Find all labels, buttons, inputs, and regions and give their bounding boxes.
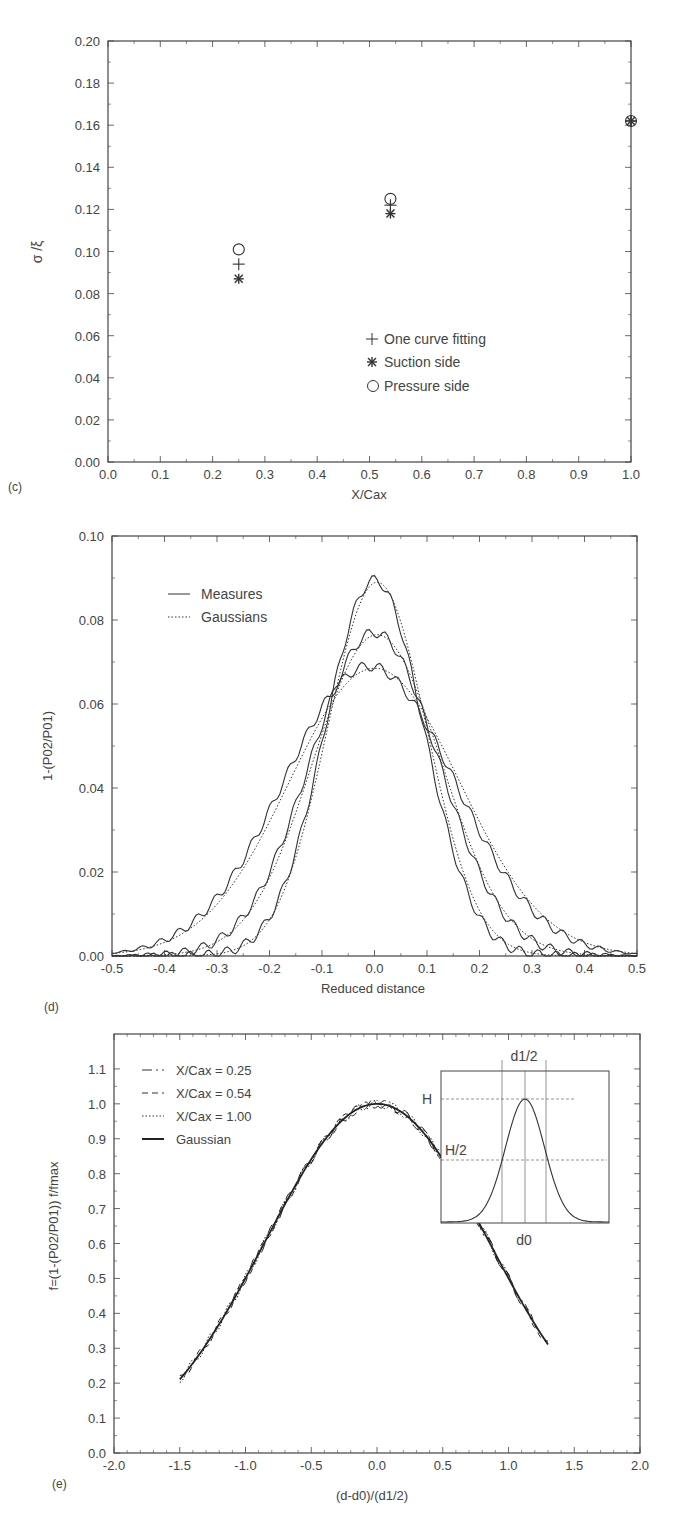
x-tick-label: -1.0 [234,1458,256,1473]
plot-frame-d [112,536,637,956]
x-tick-label: -0.2 [258,961,280,976]
legend-item-100: X/Cax = 1.00 [176,1109,252,1124]
plot-frame-c [108,41,631,462]
x-tick-label: 0.0 [368,1458,386,1473]
y-axis-ticks-c: 0.000.020.040.060.080.100.120.140.160.18… [75,34,631,470]
y-tick-label: 0.20 [75,34,100,49]
x-tick-label: 0.9 [570,467,588,482]
legend-e: X/Cax = 0.25 X/Cax = 0.54 X/Cax = 1.00 G… [142,1063,252,1147]
y-axis-label-d: 1-(P02/P01) [40,711,55,781]
x-tick-label: 0.3 [523,961,541,976]
x-tick-label: 0.0 [99,467,117,482]
curve-line [112,635,637,956]
plus-marker-icon [366,333,378,345]
y-tick-label: 0.00 [75,455,100,470]
y-tick-label: 1.0 [88,1097,106,1112]
x-tick-label: -0.4 [153,961,175,976]
legend-item-gaussians: Gaussians [201,609,267,625]
x-tick-label: 1.5 [565,1458,583,1473]
figure-canvas: 0.00.10.20.30.40.50.60.70.80.91.0 0.000.… [0,0,679,1535]
y-tick-label: 0.10 [75,245,100,260]
legend-item-054: X/Cax = 0.54 [176,1086,252,1101]
y-tick-label: 0.18 [75,76,100,91]
chart-panel-e: -2.0-1.5-1.0-0.50.00.51.01.52.0 0.00.10.… [46,1034,649,1503]
curve-line [112,582,637,956]
y-axis-label-e: f=(1-(P02/P01)) f/fmax [46,1161,61,1290]
y-tick-label: 0.04 [75,371,100,386]
x-tick-label: 0.2 [204,467,222,482]
x-tick-label: 2.0 [631,1458,649,1473]
x-tick-label: 0.8 [517,467,535,482]
y-tick-label: 0.7 [88,1202,106,1217]
x-tick-label: 0.5 [360,467,378,482]
y-tick-label: 0.06 [79,697,104,712]
x-tick-label: 0.6 [413,467,431,482]
curve-line [112,630,637,956]
y-tick-label: 0.02 [79,865,104,880]
y-tick-label: 0.08 [79,613,104,628]
legend-c: One curve fitting Suction side Pressure … [366,331,486,394]
y-tick-label: 0.8 [88,1167,106,1182]
y-tick-label: 0.6 [88,1237,106,1252]
x-tick-label: 0.4 [575,961,593,976]
x-axis-label-c: X/Cax [351,487,387,502]
legend-item-pressure: Pressure side [384,378,470,394]
x-tick-label: 0.1 [418,961,436,976]
inset-label-h-half: H/2 [445,1142,467,1158]
inset-label-d0: d0 [516,1232,532,1248]
x-tick-label: 0.0 [365,961,383,976]
legend-item-one-curve: One curve fitting [384,331,486,347]
x-tick-label: -0.3 [206,961,228,976]
y-tick-label: 0.04 [79,781,104,796]
inset-label-d1-2: d1/2 [510,1048,537,1064]
y-tick-label: 0.16 [75,118,100,133]
x-axis-label-e: (d-d0)/(d1/2) [336,1488,408,1503]
chart-panel-c: 0.00.10.20.30.40.50.60.70.80.91.0 0.000.… [8,34,640,502]
legend-d: Measures Gaussians [168,586,267,625]
x-tick-label: -0.5 [300,1458,322,1473]
y-tick-label: 0.4 [88,1306,106,1321]
y-tick-label: 0.10 [79,529,104,544]
x-tick-label: -1.5 [169,1458,191,1473]
x-tick-label: 0.7 [465,467,483,482]
y-tick-label: 0.14 [75,160,100,175]
inset-gaussian-schematic: d1/2 d0 H H/2 [422,1048,609,1248]
y-tick-label: 0.12 [75,202,100,217]
y-tick-label: 0.2 [88,1376,106,1391]
y-tick-label: 0.0 [88,1446,106,1461]
x-tick-label: 0.3 [256,467,274,482]
x-tick-label: 0.5 [434,1458,452,1473]
circle-marker-icon [368,381,379,392]
chart-panel-d: -0.5-0.4-0.3-0.2-0.10.00.10.20.30.40.5 0… [40,529,646,1014]
x-axis-label-d: Reduced distance [321,981,425,996]
legend-item-gaussian: Gaussian [176,1132,231,1147]
x-tick-label: 0.4 [308,467,326,482]
y-axis-label-c: σ /ξ [29,241,45,264]
y-tick-label: 0.02 [75,413,100,428]
y-tick-label: 0.9 [88,1132,106,1147]
y-tick-label: 0.00 [79,949,104,964]
y-tick-label: 0.3 [88,1341,106,1356]
x-tick-label: -0.5 [101,961,123,976]
legend-item-suction: Suction side [384,354,460,370]
x-tick-label: -0.1 [311,961,333,976]
asterisk-marker-icon [367,357,377,367]
inset-label-h: H [422,1091,432,1107]
x-tick-label: -2.0 [103,1458,125,1473]
scatter-points-c [233,115,637,284]
curve-line [112,668,637,953]
curve-line [112,662,637,954]
curves-d [112,576,637,956]
legend-item-measures: Measures [201,586,262,602]
panel-tag-e: (e) [52,1477,67,1491]
x-tick-label: 1.0 [622,467,640,482]
y-axis-ticks-d: 0.000.020.040.060.080.10 [79,529,637,964]
panel-tag-c: (c) [8,480,22,494]
y-tick-label: 0.06 [75,329,100,344]
x-axis-ticks-c: 0.00.10.20.30.40.50.60.70.80.91.0 [99,41,640,482]
x-tick-label: 0.2 [470,961,488,976]
legend-item-025: X/Cax = 0.25 [176,1063,252,1078]
x-axis-ticks-d: -0.5-0.4-0.3-0.2-0.10.00.10.20.30.40.5 [101,536,646,976]
y-tick-label: 0.5 [88,1271,106,1286]
y-tick-label: 1.1 [88,1062,106,1077]
